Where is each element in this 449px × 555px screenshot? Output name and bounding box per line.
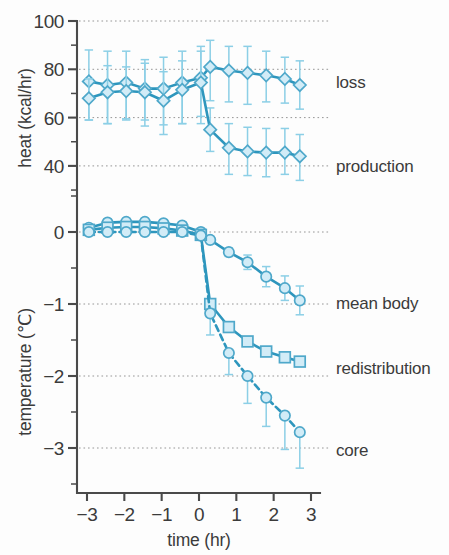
marker-production-2 bbox=[120, 85, 132, 97]
marker-core-6 bbox=[196, 230, 206, 240]
marker-production-11 bbox=[279, 146, 291, 158]
marker-production-12 bbox=[294, 150, 306, 162]
series-mean-body bbox=[84, 217, 305, 315]
xtick-label-0: 0 bbox=[194, 504, 204, 525]
errorbars-production bbox=[85, 51, 304, 180]
xtick-label-1: 1 bbox=[231, 504, 241, 525]
y-axis-title-heat: heat (kcal/hr) bbox=[15, 68, 35, 167]
marker-core-8 bbox=[224, 348, 234, 358]
chart-svg: 1008060400−1−2−3−3−2−10123heat (kcal/hr)… bbox=[0, 0, 449, 555]
marker-core-4 bbox=[158, 227, 168, 237]
y-axis-title-temperature: temperature (℃) bbox=[15, 308, 35, 436]
x-axis-title: time (hr) bbox=[167, 530, 230, 550]
series-redistribution bbox=[83, 222, 305, 367]
marker-mean-body-9 bbox=[242, 257, 252, 267]
ytick-label-heat-100: 100 bbox=[33, 11, 64, 32]
marker-core-0 bbox=[84, 227, 94, 237]
marker-mean-body-8 bbox=[224, 247, 234, 257]
data-series-layer bbox=[83, 40, 306, 468]
ytick-label-heat-60: 60 bbox=[44, 108, 64, 129]
marker-mean-body-11 bbox=[280, 283, 290, 293]
marker-redistribution-11 bbox=[279, 352, 290, 363]
marker-redistribution-12 bbox=[294, 356, 305, 367]
marker-redistribution-9 bbox=[242, 336, 253, 347]
marker-redistribution-8 bbox=[223, 322, 234, 333]
marker-core-12 bbox=[295, 427, 305, 437]
xtick-label--3: −3 bbox=[77, 504, 98, 525]
line-redistribution bbox=[89, 227, 300, 362]
series-label-core: core bbox=[336, 441, 368, 460]
ytick-label-temp-0: 0 bbox=[54, 222, 64, 243]
ytick-label-temp--2: −2 bbox=[43, 366, 64, 387]
marker-loss-9 bbox=[241, 67, 253, 79]
series-label-production: production bbox=[336, 157, 413, 176]
marker-core-9 bbox=[242, 371, 252, 381]
ytick-label-heat-80: 80 bbox=[44, 59, 64, 80]
marker-core-11 bbox=[280, 410, 290, 420]
marker-core-7 bbox=[205, 308, 215, 318]
series-production bbox=[83, 51, 306, 180]
series-label-redistribution: redistribution bbox=[336, 359, 431, 378]
marker-core-1 bbox=[102, 227, 112, 237]
marker-core-2 bbox=[121, 227, 131, 237]
ytick-label-temp--1: −1 bbox=[43, 294, 64, 315]
series-label-loss: loss bbox=[336, 73, 365, 92]
ytick-label-heat-40: 40 bbox=[44, 156, 64, 177]
marker-mean-body-10 bbox=[261, 271, 271, 281]
marker-loss-11 bbox=[279, 73, 291, 85]
marker-production-10 bbox=[260, 146, 272, 158]
marker-production-0 bbox=[83, 92, 95, 104]
marker-core-10 bbox=[261, 392, 271, 402]
series-label-mean-body: mean body bbox=[336, 294, 419, 313]
line-production bbox=[89, 83, 300, 157]
marker-core-5 bbox=[177, 227, 187, 237]
figure-container: 1008060400−1−2−3−3−2−10123heat (kcal/hr)… bbox=[0, 0, 449, 555]
marker-loss-10 bbox=[260, 69, 272, 81]
ytick-label-temp--3: −3 bbox=[43, 438, 64, 459]
xtick-label--2: −2 bbox=[114, 504, 135, 525]
markers-core bbox=[84, 227, 305, 438]
marker-mean-body-12 bbox=[295, 295, 305, 305]
marker-production-9 bbox=[241, 145, 253, 157]
marker-core-3 bbox=[140, 227, 150, 237]
marker-loss-12 bbox=[294, 79, 306, 91]
markers-production bbox=[83, 76, 306, 162]
marker-redistribution-10 bbox=[261, 346, 272, 357]
markers-redistribution bbox=[83, 222, 305, 367]
marker-production-4 bbox=[157, 94, 169, 106]
xtick-label-3: 3 bbox=[306, 504, 316, 525]
marker-loss-8 bbox=[223, 64, 235, 76]
xtick-label--1: −1 bbox=[151, 504, 172, 525]
xtick-label-2: 2 bbox=[269, 504, 279, 525]
